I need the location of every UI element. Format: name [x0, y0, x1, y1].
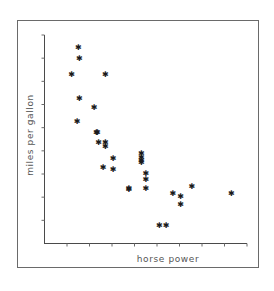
data-point-marker: ✱ [75, 43, 82, 52]
data-point-marker: ✱ [126, 185, 133, 194]
data-point-marker: ✱ [110, 154, 117, 163]
figure-frame [18, 21, 259, 268]
data-point-marker: ✱ [142, 175, 149, 184]
data-point-marker: ✱ [189, 182, 196, 191]
data-point-marker: ✱ [110, 165, 117, 174]
data-point-marker: ✱ [142, 184, 149, 193]
data-point-marker: ✱ [138, 158, 145, 167]
x-axis-label: horse power [137, 254, 199, 264]
data-point-marker: ✱ [102, 70, 109, 79]
data-point-marker: ✱ [76, 54, 83, 63]
data-point-marker: ✱ [169, 189, 176, 198]
y-axis-label: miles per gallon [25, 94, 35, 176]
scatter-chart: ✱✱✱✱✱✱✱✱✱✱✱✱✱✱✱✱✱✱✱✱✱✱✱✱✱✱✱✱✱✱✱ miles pe… [0, 0, 274, 291]
data-point-marker: ✱ [76, 94, 83, 103]
data-point-marker: ✱ [228, 189, 235, 198]
data-point-marker: ✱ [163, 221, 170, 230]
data-point-marker: ✱ [102, 142, 109, 151]
data-point-marker: ✱ [74, 117, 81, 126]
data-point-marker: ✱ [68, 70, 75, 79]
data-point-marker: ✱ [177, 200, 184, 209]
data-point-marker: ✱ [94, 128, 101, 137]
data-point-marker: ✱ [91, 103, 98, 112]
data-points: ✱✱✱✱✱✱✱✱✱✱✱✱✱✱✱✱✱✱✱✱✱✱✱✱✱✱✱✱✱✱✱ [68, 43, 235, 230]
data-point-marker: ✱ [100, 163, 107, 172]
